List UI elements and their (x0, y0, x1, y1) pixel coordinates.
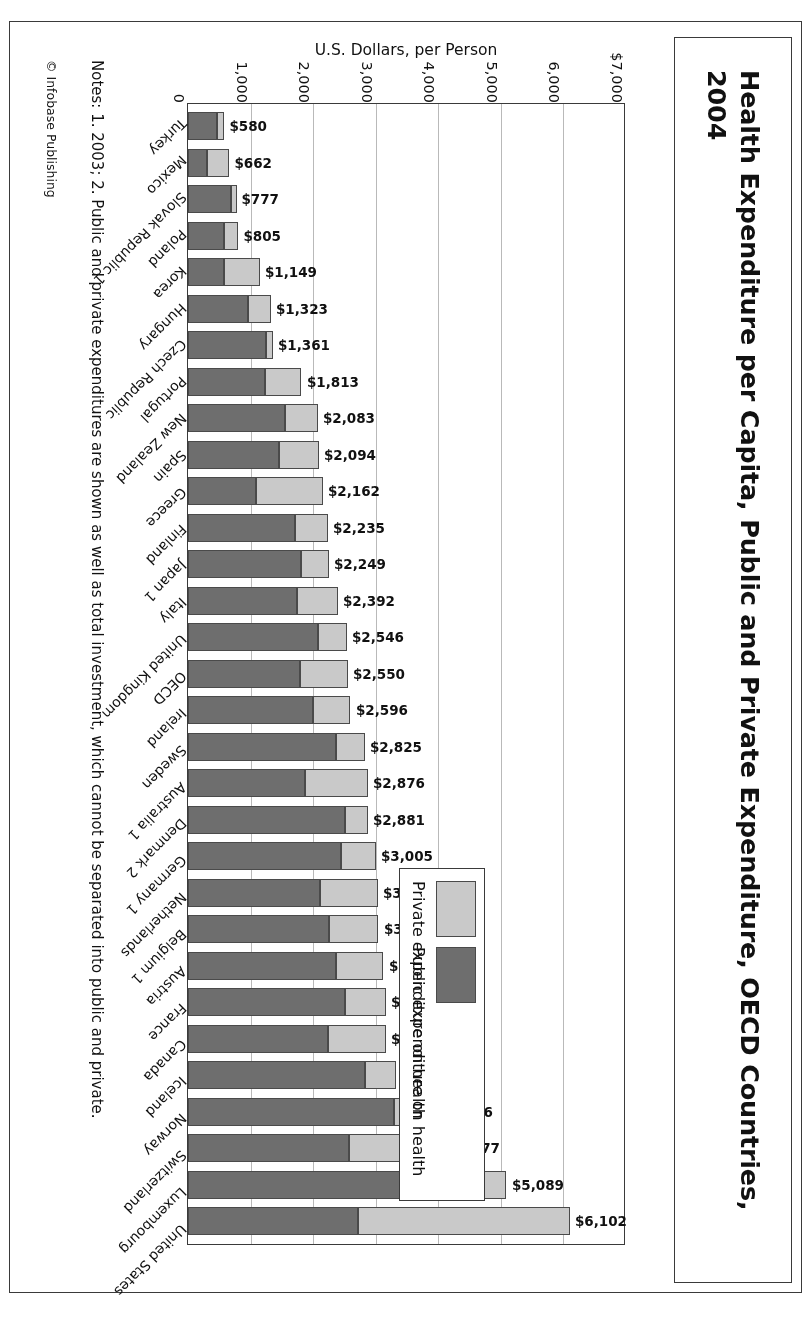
bar-row: $2,235 (188, 514, 624, 542)
notes-block: Notes: 1. 2003; 2. Public and private ex… (11, 37, 125, 1283)
bar-segment-private (265, 368, 301, 396)
bar-row: $662 (188, 149, 624, 177)
axis-tick-label: 6,000 (546, 61, 562, 103)
bar-value-label: $1,813 (306, 374, 358, 390)
legend: Private expenditure on health Public exp… (399, 868, 485, 1201)
bar-value-label: $2,881 (373, 812, 425, 828)
category-labels: United StatesLuxembourgSwitzerlandNorway… (131, 103, 187, 1245)
bar-value-label: $2,596 (355, 703, 407, 719)
bar-segment-public (188, 916, 329, 944)
bar-row: $2,249 (188, 551, 624, 579)
bar-segment-public (188, 587, 297, 615)
bar-segment-public (188, 770, 305, 798)
bar-segment-private (295, 514, 328, 542)
bar-segment-public (188, 368, 265, 396)
bar-segment-public (188, 733, 336, 761)
bar-value-label: $1,323 (276, 301, 328, 317)
bar-segment-public (188, 186, 231, 214)
bar-segment-private (224, 259, 260, 287)
category-label: Mexico (144, 153, 190, 199)
bar-segment-public (188, 478, 256, 506)
bar-segment-public (188, 332, 266, 360)
bar-value-label: $2,392 (343, 593, 395, 609)
bar-segment-private (359, 1208, 570, 1236)
bar-segment-public (188, 405, 285, 433)
bar-value-label: $2,876 (373, 776, 425, 792)
bar-segment-public (188, 113, 217, 141)
bar-row: $1,149 (188, 259, 624, 287)
bar-row: $1,813 (188, 368, 624, 396)
bar-segment-public (188, 1098, 394, 1126)
bar-segment-private (297, 587, 338, 615)
bar-row: $777 (188, 186, 624, 214)
bar-segment-private (279, 441, 319, 469)
legend-swatch-private (436, 881, 476, 937)
bar-segment-public (188, 259, 224, 287)
publisher-credit: © Infobase Publishing (44, 60, 59, 1275)
bar-segment-public (188, 441, 279, 469)
bar-row: $2,392 (188, 587, 624, 615)
axis-tick-label: 0 (171, 94, 187, 103)
bar-row: $1,323 (188, 295, 624, 323)
bar-segment-private (248, 295, 271, 323)
bar-value-label: $2,550 (353, 666, 405, 682)
bar-value-label: $2,235 (333, 520, 385, 536)
bar-value-label: $6,102 (575, 1214, 627, 1230)
page-title: Health Expenditure per Capita, Public an… (700, 70, 766, 1250)
bar-segment-public (188, 514, 295, 542)
chart-panel: $6,102$5,089$4,077$3,966$3,331$3,165$3,1… (131, 37, 661, 1283)
bar-segment-private (345, 989, 386, 1017)
bar-row: $580 (188, 113, 624, 141)
bar-segment-private (300, 660, 348, 688)
bar-row: $2,825 (188, 733, 624, 761)
value-axis-ticks: $7,0006,0005,0004,0003,0002,0001,0000 (187, 59, 625, 103)
category-label: Ireland (144, 705, 190, 751)
bar-segment-public (188, 1135, 349, 1163)
bar-value-label: $1,361 (278, 338, 330, 354)
bar-value-label: $2,825 (370, 739, 422, 755)
axis-tick-label: 3,000 (359, 61, 375, 103)
bar-row: $2,596 (188, 697, 624, 725)
category-label: Italy (157, 595, 190, 628)
value-axis-title: U.S. Dollars, per Person (187, 41, 625, 59)
bar-segment-private (336, 952, 383, 980)
bar-row: $2,546 (188, 624, 624, 652)
axis-tick-label: 1,000 (234, 61, 250, 103)
bar-segment-public (188, 1025, 328, 1053)
bar-segment-private (231, 186, 237, 214)
bar-segment-private (318, 624, 347, 652)
bar-segment-public (188, 989, 345, 1017)
bar-row: $805 (188, 222, 624, 250)
bar-segment-public (188, 1208, 359, 1236)
bar-segment-public (188, 295, 248, 323)
bar-segment-private (266, 332, 273, 360)
bar-segment-public (188, 624, 318, 652)
axis-tick-label: 4,000 (421, 61, 437, 103)
axis-tick-label: 5,000 (484, 61, 500, 103)
category-label: Turkey (146, 116, 190, 160)
bar-segment-public (188, 551, 301, 579)
bar-value-label: $3,005 (381, 849, 433, 865)
bar-value-label: $805 (243, 228, 281, 244)
bar-value-label: $2,083 (323, 411, 375, 427)
bar-value-label: $2,546 (352, 630, 404, 646)
bar-segment-private (320, 879, 379, 907)
bar-segment-private (328, 1025, 386, 1053)
bar-row: $1,361 (188, 332, 624, 360)
bar-segment-private (336, 733, 365, 761)
bar-value-label: $777 (242, 192, 280, 208)
bar-segment-private (365, 1062, 396, 1090)
bar-segment-private (301, 551, 329, 579)
bar-row: $2,094 (188, 441, 624, 469)
bar-segment-private (341, 843, 376, 871)
bar-segment-public (188, 660, 300, 688)
notes-text: Notes: 1. 2003; 2. Public and private ex… (86, 60, 107, 1275)
bar-segment-private (217, 113, 224, 141)
bar-segment-private (329, 916, 379, 944)
bar-segment-public (188, 222, 224, 250)
title-box: Health Expenditure per Capita, Public an… (674, 37, 792, 1283)
bar-segment-public (188, 952, 336, 980)
bar-segment-public (188, 843, 341, 871)
category-label: Greece (143, 484, 190, 531)
bar-segment-public (188, 697, 313, 725)
